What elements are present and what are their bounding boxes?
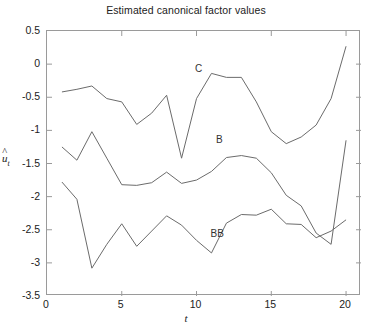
series-line-b (62, 132, 346, 245)
x-axis-label: t (0, 312, 372, 324)
y-tick-label: -3 (0, 256, 40, 268)
y-tick-label: -0.5 (0, 90, 40, 102)
x-tick-label: 0 (31, 298, 61, 310)
y-tick-label: -2 (0, 190, 40, 202)
y-tick-label: -2.5 (0, 223, 40, 235)
y-tick-label: 0.5 (0, 24, 40, 36)
series-label-c: C (195, 63, 202, 74)
x-tick-label: 20 (330, 298, 360, 310)
series-line-bb (62, 182, 346, 268)
series-line-c (62, 46, 346, 158)
y-tick-label: -1.5 (0, 157, 40, 169)
y-tick-label: -1 (0, 123, 40, 135)
y-tick-label: 0 (0, 57, 40, 69)
series-label-b: B (216, 133, 223, 144)
x-tick-label: 10 (181, 298, 211, 310)
series-label-bb: BB (211, 227, 224, 238)
chart-title: Estimated canonical factor values (0, 4, 372, 16)
x-tick-label: 5 (106, 298, 136, 310)
plot-area (46, 30, 360, 295)
chart-figure: Estimated canonical factor values ^ut t … (0, 0, 372, 331)
plot-canvas (47, 31, 361, 296)
x-tick-label: 15 (255, 298, 285, 310)
